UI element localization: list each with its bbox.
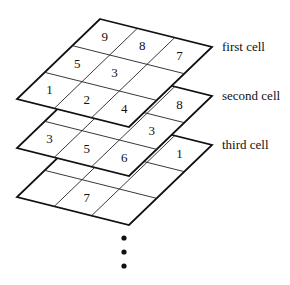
cell-label: second cell xyxy=(222,88,281,103)
cell-number: 7 xyxy=(84,190,91,205)
stacked-cells-diagram: 17third cell83356second cell98753124firs… xyxy=(0,0,290,285)
cell-label: third cell xyxy=(222,137,269,152)
continuation-dot xyxy=(121,235,126,240)
cell-number: 9 xyxy=(102,29,109,44)
cell-label: first cell xyxy=(222,39,265,54)
cell-number: 5 xyxy=(74,56,81,71)
cell-number: 8 xyxy=(176,97,183,112)
cell-number: 7 xyxy=(176,48,183,63)
cell-number: 5 xyxy=(84,141,91,156)
cell-number: 6 xyxy=(121,150,128,165)
cell-number: 3 xyxy=(46,131,53,146)
cell-number: 2 xyxy=(84,92,91,107)
cell-number: 8 xyxy=(139,38,146,53)
cell-1: 98753124first cell xyxy=(17,19,265,127)
cell-number: 3 xyxy=(111,65,118,80)
cell-number: 1 xyxy=(176,146,183,161)
cell-number: 3 xyxy=(149,123,156,138)
continuation-dot xyxy=(121,249,126,254)
cell-number: 4 xyxy=(121,101,128,116)
cell-number: 1 xyxy=(46,82,53,97)
continuation-dot xyxy=(121,263,126,268)
